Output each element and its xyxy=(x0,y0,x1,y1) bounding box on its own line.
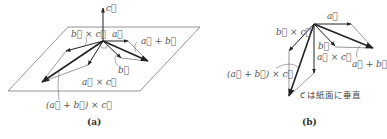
label-b: b⃗ xyxy=(118,66,129,75)
label-c-perpendicular-note: c⃗ は紙面に垂直 xyxy=(300,88,361,100)
label-a-plus-b: a⃗ + b⃗ xyxy=(141,37,176,46)
label-a-plus-b-b: a⃗ + b⃗ xyxy=(352,60,387,69)
vector-a-plus-b-cross-c xyxy=(42,41,103,82)
caption-b: (b) xyxy=(302,117,317,127)
leader-a-plus-b-cross-c-b xyxy=(276,64,300,68)
label-b-cross-c-b: b⃗ × c⃗ xyxy=(276,28,311,37)
label-a-b: a⃗ xyxy=(327,12,338,21)
vector-b xyxy=(103,41,121,58)
right-angle-mark xyxy=(100,45,108,48)
label-a-cross-c: a⃗ × c⃗ xyxy=(82,78,116,87)
label-a-plus-b-cross-c: (a⃗ + b⃗) × c⃗ xyxy=(46,101,112,110)
construction-lines-ab-b xyxy=(335,24,373,48)
leader-a-plus-b xyxy=(135,42,137,52)
caption-a: (a) xyxy=(87,117,101,127)
label-b-cross-c: b⃗ × c⃗ xyxy=(71,30,106,39)
label-c: c⃗ xyxy=(106,4,116,13)
label-a-plus-b-cross-c-b: (a⃗ + b⃗) × c⃗ xyxy=(227,70,293,79)
leader-a-plus-b-b xyxy=(357,45,362,58)
label-a-cross-c-b: a⃗ × c⃗ xyxy=(317,53,351,62)
label-a: a⃗ xyxy=(112,30,123,39)
label-b-b: b⃗ xyxy=(318,42,329,51)
